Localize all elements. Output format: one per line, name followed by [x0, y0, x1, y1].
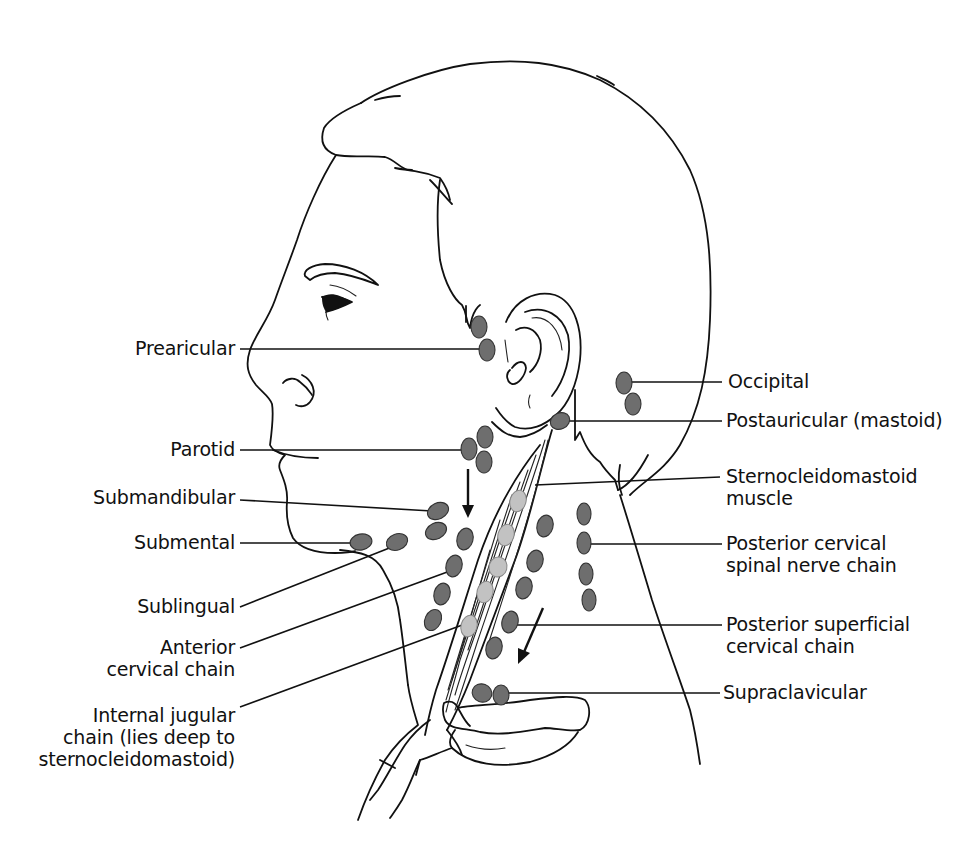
- label-parotid: Parotid: [170, 438, 235, 460]
- label-postauricular: Postauricular (mastoid): [726, 409, 942, 431]
- label-occipital: Occipital: [728, 370, 809, 392]
- label-submandibular: Submandibular: [93, 486, 235, 508]
- ear: [496, 294, 581, 429]
- label-submental: Submental: [134, 531, 235, 553]
- label-sublingual: Sublingual: [137, 595, 235, 617]
- label-posterior-superficial-cervical-chain: Posterior superficial cervical chain: [726, 613, 910, 657]
- face-profile: [248, 155, 378, 553]
- clavicle: [370, 697, 589, 818]
- leader-lines: [240, 349, 722, 707]
- label-posterior-cervical-spinal-nerve-chain: Posterior cervical spinal nerve chain: [726, 532, 897, 576]
- label-prearicular: Prearicular: [135, 337, 235, 359]
- jaw-and-neck: [340, 390, 700, 820]
- arrow-down-icon: [462, 505, 474, 518]
- lymph-node-diagram: Prearicular Parotid Submandibular Submen…: [0, 0, 978, 854]
- lymph-nodes: [349, 316, 641, 705]
- head-outline: [322, 61, 710, 495]
- label-internal-jugular-chain: Internal jugular chain (lies deep to ste…: [39, 704, 235, 770]
- label-sternocleidomastoid-muscle: Sternocleidomastoid muscle: [726, 465, 917, 509]
- label-supraclavicular: Supraclavicular: [723, 681, 867, 703]
- label-anterior-cervical-chain: Anterior cervical chain: [106, 636, 235, 680]
